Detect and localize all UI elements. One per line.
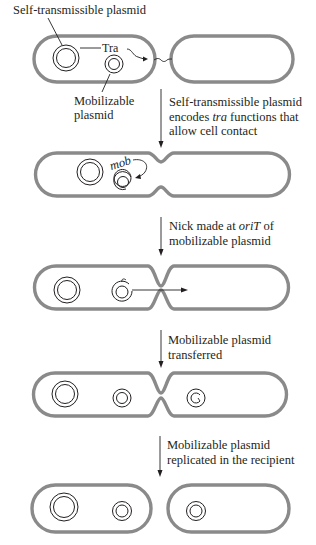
arrowhead-icon (135, 174, 141, 179)
step-1-line2: encodes tra functions that (169, 110, 302, 125)
self-transmissible-plasmid-icon (52, 381, 78, 407)
stage-4-cells (34, 373, 287, 416)
stage-1-cells (34, 18, 293, 92)
step-1-line1: Self-transmissible plasmid (169, 95, 302, 110)
step-3-line2: transferred (168, 348, 271, 363)
self-transmissible-plasmid-label: Self-transmissible plasmid (13, 3, 146, 17)
step-arrow-3 (159, 330, 164, 368)
stage-3-cells (35, 266, 289, 309)
mobilizable-plasmid-nicking-icon (114, 169, 131, 189)
mating-pair-envelope (34, 373, 287, 416)
self-transmissible-plasmid-icon (50, 493, 78, 521)
label-leader-line (48, 18, 62, 45)
mobilizable-plasmid-label-line2: plasmid (74, 108, 114, 122)
transferred-ssdna-plasmid-icon (187, 389, 205, 407)
pilus-connection (154, 59, 172, 62)
mobilizable-plasmid-icon (105, 55, 123, 73)
stage-2-cells: mob (36, 153, 290, 196)
step-3-line1: Mobilizable plasmid (168, 333, 271, 348)
mating-pair-envelope (36, 153, 290, 196)
arrowhead-icon (143, 57, 148, 62)
donor-cell (34, 36, 155, 82)
arrowhead-icon (181, 288, 188, 293)
step-2-line2: mobilizable plasmid (169, 234, 274, 249)
step-3-caption: Mobilizable plasmid transferred (168, 333, 271, 362)
step-2-caption: Nick made at oriT of mobilizable plasmid (169, 219, 274, 248)
mating-pair-envelope (35, 266, 289, 309)
step-1-line3: allow cell contact (169, 124, 302, 139)
step-1-caption: Self-transmissible plasmid encodes tra f… (169, 95, 302, 139)
self-transmissible-plasmid-icon (77, 159, 103, 185)
step-4-line2: replicated in the recipient (167, 453, 294, 468)
step-arrow-2 (159, 217, 164, 256)
mobilizable-plasmid-label-line1: Mobilizable (74, 94, 134, 108)
mob-label: mob (108, 153, 133, 173)
mobilizable-plasmid-icon (113, 502, 132, 521)
recipient-cell (168, 485, 289, 532)
replicated-mobilizable-plasmid-icon (187, 502, 206, 521)
stage-5-cells (32, 485, 289, 532)
nicked-mobilizable-plasmid-icon (112, 279, 132, 301)
step-arrow-1 (159, 89, 164, 148)
step-4-caption: Mobilizable plasmid replicated in the re… (167, 438, 294, 467)
mobilizable-plasmid-icon (113, 389, 131, 407)
step-4-line1: Mobilizable plasmid (167, 438, 294, 453)
step-2-line1: Nick made at oriT of (169, 219, 274, 234)
tra-label: Tra (102, 41, 118, 55)
self-transmissible-plasmid-icon (53, 45, 79, 71)
self-transmissible-plasmid-icon (54, 277, 80, 303)
recipient-cell (171, 36, 293, 82)
step-arrow-4 (158, 436, 163, 477)
